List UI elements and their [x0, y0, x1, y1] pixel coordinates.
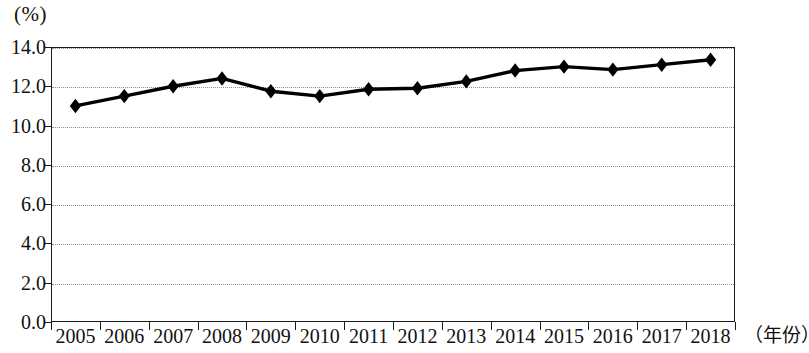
- x-axis-tick-label: 2008: [202, 326, 242, 346]
- x-axis-tick-label: 2014: [495, 326, 535, 346]
- x-axis-label: （年份）: [744, 326, 809, 345]
- x-axis-tick-mark: [442, 322, 443, 330]
- y-axis-tick-label: 10.0: [11, 116, 46, 136]
- x-axis-tick-mark: [588, 322, 589, 330]
- y-axis-tick-label: 8.0: [21, 155, 46, 175]
- x-axis-tick-mark: [491, 322, 492, 330]
- x-axis-tick-label: 2009: [251, 326, 291, 346]
- x-axis-tick-mark: [393, 322, 394, 330]
- y-axis-tick-label: 0.0: [21, 312, 46, 332]
- y-axis-tick-label: 12.0: [11, 76, 46, 96]
- gridline: [52, 48, 734, 49]
- y-axis-tick-mark: [45, 86, 52, 87]
- plot-area: [51, 47, 735, 322]
- x-axis-tick-mark: [295, 322, 296, 330]
- y-axis-tick-label: 6.0: [21, 194, 46, 214]
- x-axis-tick-label: 2015: [544, 326, 584, 346]
- x-axis-tick-label: 2017: [642, 326, 682, 346]
- x-axis-tick-mark: [51, 322, 52, 330]
- y-axis-tick-mark: [45, 126, 52, 127]
- x-axis-tick-label: 2012: [397, 326, 437, 346]
- x-axis-tick-mark: [637, 322, 638, 330]
- x-axis-tick-mark: [246, 322, 247, 330]
- y-axis-tick-label: 2.0: [21, 273, 46, 293]
- x-axis-tick-mark: [100, 322, 101, 330]
- x-axis-tick-label: 2010: [300, 326, 340, 346]
- gridline: [52, 166, 734, 167]
- gridline: [52, 127, 734, 128]
- gridline: [52, 244, 734, 245]
- x-axis-tick-mark: [735, 322, 736, 330]
- x-axis-tick-mark: [344, 322, 345, 330]
- x-axis-tick-label: 2018: [691, 326, 731, 346]
- y-axis-tick-mark: [45, 165, 52, 166]
- x-axis-tick-label: 2006: [104, 326, 144, 346]
- gridline: [52, 205, 734, 206]
- x-axis-tick-label: 2016: [593, 326, 633, 346]
- y-axis-tick-mark: [45, 283, 52, 284]
- x-axis-tick-label: 2007: [153, 326, 193, 346]
- y-axis-tick-label: 4.0: [21, 233, 46, 253]
- y-axis-tick-mark: [45, 204, 52, 205]
- y-axis-tick-mark: [45, 47, 52, 48]
- gridline: [52, 87, 734, 88]
- gridline: [52, 284, 734, 285]
- y-axis-tick-mark: [45, 243, 52, 244]
- x-axis-tick-mark: [198, 322, 199, 330]
- x-axis-tick-mark: [686, 322, 687, 330]
- x-axis-tick-label: 2011: [349, 326, 388, 346]
- y-axis-tick-label: 14.0: [11, 37, 46, 57]
- line-chart: (%) 0.02.04.06.08.010.012.014.0 20052006…: [0, 0, 809, 353]
- x-axis-tick-label: 2013: [446, 326, 486, 346]
- x-axis-tick-mark: [149, 322, 150, 330]
- x-axis-tick-mark: [540, 322, 541, 330]
- y-axis-unit-label: (%): [14, 4, 47, 25]
- x-axis-tick-label: 2005: [55, 326, 95, 346]
